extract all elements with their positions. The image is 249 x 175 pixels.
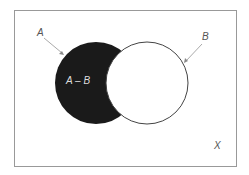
label-universe-x: X [213, 140, 221, 151]
venn-diagram: A B A – B X [0, 0, 249, 175]
label-a-minus-b: A – B [65, 75, 90, 86]
label-b: B [202, 31, 209, 42]
label-a: A [36, 27, 44, 38]
